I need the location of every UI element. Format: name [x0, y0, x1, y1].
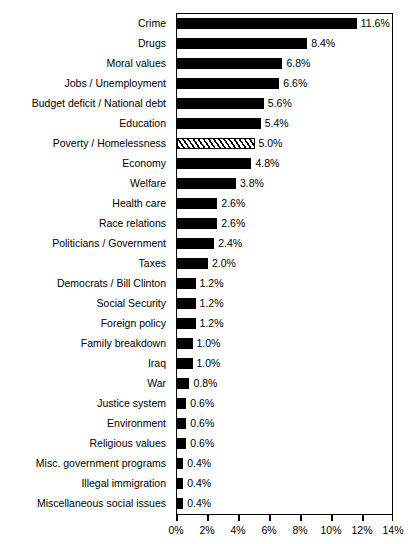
bar-value-label: 3.8%	[236, 178, 264, 189]
category-label: Drugs	[0, 33, 172, 53]
axis-tick-label: 2%	[199, 524, 214, 536]
category-label: Family breakdown	[0, 333, 172, 353]
bar-value-label: 5.0%	[255, 138, 283, 149]
bar	[177, 278, 196, 289]
bar-row: 5.6%	[177, 94, 394, 114]
bar-row: 2.0%	[177, 254, 394, 274]
bar-row: 2.6%	[177, 214, 394, 234]
axis-tick	[207, 515, 209, 521]
bar	[177, 318, 196, 329]
bar-value-label: 1.0%	[193, 358, 221, 369]
bar-value-label: 2.6%	[217, 198, 245, 209]
category-label: Social Security	[0, 293, 172, 313]
bar-row: 2.4%	[177, 234, 394, 254]
category-label: Politicians / Government	[0, 233, 172, 253]
category-label: Religious values	[0, 433, 172, 453]
axis-tick	[362, 515, 364, 521]
bar	[177, 198, 217, 209]
bar-value-label: 4.8%	[251, 158, 279, 169]
bar-value-label: 6.6%	[279, 78, 307, 89]
category-label: Race relations	[0, 213, 172, 233]
bar-row: 2.6%	[177, 194, 394, 214]
bar	[177, 58, 282, 69]
category-label: War	[0, 373, 172, 393]
bar-row: 1.0%	[177, 334, 394, 354]
bar-value-label: 0.8%	[189, 378, 217, 389]
category-label: Jobs / Unemployment	[0, 73, 172, 93]
bar-row: 8.4%	[177, 34, 394, 54]
bar-row: 6.6%	[177, 74, 394, 94]
bar-value-label: 0.6%	[186, 438, 214, 449]
axis-tick-label: 6%	[261, 524, 276, 536]
axis-tick-label: 4%	[230, 524, 245, 536]
category-label: Health care	[0, 193, 172, 213]
bar-value-label: 0.4%	[183, 458, 211, 469]
bar	[177, 398, 186, 409]
bar	[177, 118, 261, 129]
bar	[177, 38, 307, 49]
bar-row: 5.0%	[177, 134, 394, 154]
bar	[177, 338, 193, 349]
bar-value-label: 1.2%	[196, 298, 224, 309]
bar	[177, 238, 214, 249]
bar-value-label: 1.2%	[196, 278, 224, 289]
category-label: Environment	[0, 413, 172, 433]
bar-row: 0.4%	[177, 494, 394, 514]
bar-row: 1.2%	[177, 294, 394, 314]
axis-tick	[300, 515, 302, 521]
category-label: Miscellaneous social issues	[0, 493, 172, 513]
axis-tick	[331, 515, 333, 521]
bar-value-label: 0.4%	[183, 498, 211, 509]
bars-container: 11.6%8.4%6.8%6.6%5.6%5.4%5.0%4.8%3.8%2.6…	[177, 14, 392, 514]
bar-row: 0.4%	[177, 474, 394, 494]
bar-value-label: 6.8%	[282, 58, 310, 69]
bar	[177, 18, 357, 29]
bar-row: 0.6%	[177, 434, 394, 454]
bar-value-label: 1.2%	[196, 318, 224, 329]
bar-row: 0.8%	[177, 374, 394, 394]
bar-row: 6.8%	[177, 54, 394, 74]
bar-row: 5.4%	[177, 114, 394, 134]
category-label: Taxes	[0, 253, 172, 273]
bar	[177, 418, 186, 429]
bar	[177, 78, 279, 89]
axis-tick-label: 12%	[351, 524, 372, 536]
bar-value-label: 2.6%	[217, 218, 245, 229]
bar	[177, 158, 251, 169]
bar-value-label: 2.4%	[214, 238, 242, 249]
axis-tick-label: 0%	[168, 524, 183, 536]
x-axis-ticks	[176, 515, 393, 523]
axis-tick	[176, 515, 178, 521]
category-label: Economy	[0, 153, 172, 173]
axis-tick-label: 10%	[320, 524, 341, 536]
category-label: Iraq	[0, 353, 172, 373]
category-label: Poverty / Homelessness	[0, 133, 172, 153]
plot-area: 11.6%8.4%6.8%6.6%5.6%5.4%5.0%4.8%3.8%2.6…	[176, 13, 393, 515]
bar-row: 4.8%	[177, 154, 394, 174]
bar	[177, 438, 186, 449]
bar-value-label: 5.6%	[264, 98, 292, 109]
category-label: Misc. government programs	[0, 453, 172, 473]
bar-value-label: 1.0%	[193, 338, 221, 349]
axis-tick	[392, 515, 394, 521]
bar	[177, 98, 264, 109]
bar-value-label: 0.6%	[186, 418, 214, 429]
bar	[177, 358, 193, 369]
category-label: Illegal immigration	[0, 473, 172, 493]
category-axis-labels: CrimeDrugsMoral valuesJobs / Unemploymen…	[0, 13, 172, 513]
bar-highlighted	[177, 138, 255, 149]
bar-chart: CrimeDrugsMoral valuesJobs / Unemploymen…	[0, 0, 410, 544]
bar-value-label: 2.0%	[208, 258, 236, 269]
bar	[177, 298, 196, 309]
bar-row: 1.2%	[177, 274, 394, 294]
axis-tick-label: 14%	[382, 524, 403, 536]
category-label: Justice system	[0, 393, 172, 413]
bar	[177, 378, 189, 389]
x-axis-tick-labels: 0%2%4%6%8%10%12%14%	[176, 524, 393, 540]
bar-value-label: 8.4%	[307, 38, 335, 49]
category-label: Budget deficit / National debt	[0, 93, 172, 113]
category-label: Moral values	[0, 53, 172, 73]
bar-row: 11.6%	[177, 14, 394, 34]
bar-value-label: 11.6%	[357, 18, 390, 29]
axis-tick	[269, 515, 271, 521]
